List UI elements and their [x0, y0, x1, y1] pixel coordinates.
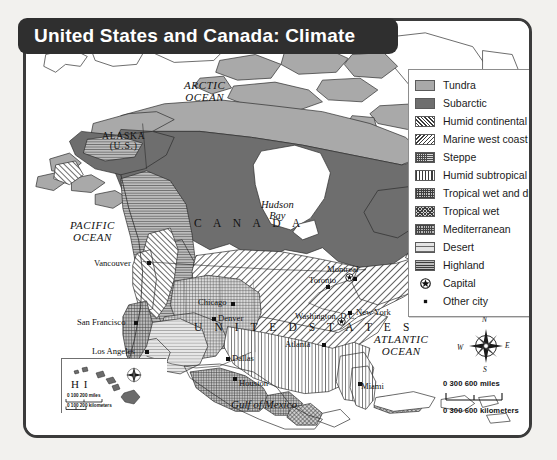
legend-item-tropical-wet: Tropical wet [415, 202, 532, 220]
compass-rose-graphic [463, 323, 509, 369]
city-dot-denver [212, 317, 216, 321]
scale-bar: 0 300 600 miles 0 300 600 kilometers [443, 379, 532, 415]
legend-swatch-marine-west-coast [415, 134, 435, 145]
legend-item-humid-subtropical: Humid subtropical [415, 166, 532, 184]
legend-label-highland: Highland [443, 259, 484, 271]
legend-item-humid-continental: Humid continental [415, 112, 532, 130]
legend-swatch-humid-subtropical [415, 170, 435, 181]
capital-star-icon [415, 277, 435, 290]
city-dot-vancouver [147, 261, 151, 265]
compass-label-east: E [505, 341, 510, 350]
legend-item-subarctic: Subarctic [415, 94, 532, 112]
capital-star-icon-ottawa [345, 273, 354, 282]
city-dot-san-francisco [134, 321, 138, 325]
compass-label-west: W [457, 343, 463, 352]
legend-label-mediterranean: Mediterranean [443, 223, 511, 235]
legend-swatch-tundra [415, 80, 435, 91]
inset-scale-miles: 0 100 200 miles [67, 393, 100, 398]
city-dot-los-angeles [145, 350, 149, 354]
legend-label-steppe: Steppe [443, 151, 476, 163]
legend-swatch-desert [415, 242, 435, 253]
map-legend: Tundra Subarctic Humid continental Marin… [408, 69, 532, 317]
legend-item-highland: Highland [415, 256, 532, 274]
inset-scale-kilometers: 0 100 200 kilometers [67, 403, 112, 408]
scale-bar-graphic [443, 392, 532, 402]
scale-bar-kilometers-label: 0 300 600 kilometers [443, 406, 532, 415]
legend-label-tropical-wet-and-dry: Tropical wet and dry [443, 187, 532, 199]
legend-swatch-tropical-wet [415, 206, 435, 217]
compass-rose: N E S W [463, 323, 509, 369]
legend-item-capital: Capital [415, 274, 532, 292]
city-dot-icon [415, 295, 435, 308]
legend-label-tropical-wet: Tropical wet [443, 205, 499, 217]
legend-label-humid-continental: Humid continental [443, 115, 527, 127]
legend-item-other-city: Other city [415, 292, 532, 310]
compass-label-south: S [483, 365, 487, 374]
legend-swatch-humid-continental [415, 116, 435, 127]
city-dot-new-york [348, 311, 352, 315]
map-title-banner: United States and Canada: Climate [18, 18, 398, 54]
city-dot-atlanta [322, 343, 326, 347]
climate-map-figure: ARCTIC OCEAN PACIFIC OCEAN ATLANTIC OCEA… [23, 18, 532, 438]
legend-swatch-steppe [415, 152, 435, 163]
page-title: United States and Canada: Climate [34, 25, 355, 47]
legend-item-marine-west-coast: Marine west coast [415, 130, 532, 148]
inset-label-hi: H I [71, 378, 88, 390]
city-dot-houston [233, 377, 237, 381]
city-dot-miami [358, 382, 362, 386]
legend-swatch-subarctic [415, 98, 435, 109]
capital-star-icon-washington-dc [337, 317, 346, 326]
legend-label-tundra: Tundra [443, 79, 476, 91]
hawaii-inset: H I 0 100 200 miles 0 100 200 kilometers [61, 358, 166, 413]
legend-label-humid-subtropical: Humid subtropical [443, 169, 527, 181]
legend-label-other-city: Other city [443, 295, 488, 307]
legend-item-tropical-wet-and-dry: Tropical wet and dry [415, 184, 532, 202]
legend-label-desert: Desert [443, 241, 474, 253]
city-dot-toronto [326, 285, 330, 289]
city-dot-chicago [231, 302, 235, 306]
city-dot-dallas [226, 357, 230, 361]
legend-label-subarctic: Subarctic [443, 97, 487, 109]
legend-item-tundra: Tundra [415, 76, 532, 94]
legend-swatch-tropical-wet-and-dry [415, 188, 435, 199]
legend-item-desert: Desert [415, 238, 532, 256]
legend-label-capital: Capital [443, 277, 476, 289]
legend-label-marine-west-coast: Marine west coast [443, 133, 528, 145]
scale-bar-miles-label: 0 300 600 miles [443, 379, 532, 388]
legend-item-steppe: Steppe [415, 148, 532, 166]
legend-swatch-highland [415, 260, 435, 271]
legend-swatch-mediterranean [415, 224, 435, 235]
legend-item-mediterranean: Mediterranean [415, 220, 532, 238]
